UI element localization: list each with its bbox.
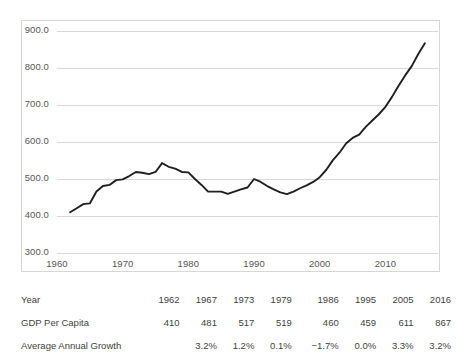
table-row-label: Average Annual Growth	[21, 334, 143, 357]
x-axis-tick-label: 1980	[168, 258, 208, 269]
table-cell: 0.0%	[339, 334, 376, 357]
x-axis-tick-label: 2000	[300, 258, 340, 269]
table-cell: 410	[143, 311, 180, 334]
table-row: GDP Per Capita410481517519460459611867	[21, 311, 451, 334]
x-axis-tick-label: 1960	[37, 258, 77, 269]
table-cell: −1.7%	[292, 334, 339, 357]
table-cell: 3.3%	[376, 334, 413, 357]
table-row-label: Year	[21, 288, 143, 311]
table-cell: 1973	[217, 288, 254, 311]
table-cell: 459	[339, 311, 376, 334]
y-axis-tick-label: 700.0	[9, 98, 49, 109]
table-cell	[143, 334, 180, 357]
table-cell: 1962	[143, 288, 180, 311]
y-axis-tick-label: 600.0	[9, 135, 49, 146]
table-cell: 460	[292, 311, 339, 334]
table-cell: 0.1%	[254, 334, 291, 357]
table-cell: 481	[180, 311, 217, 334]
table-cell: 2005	[376, 288, 413, 311]
x-axis-tick-label: 1990	[234, 258, 274, 269]
y-axis-tick-label: 400.0	[9, 209, 49, 220]
table-body: Year19621967197319791986199520052016GDP …	[21, 288, 451, 357]
table-cell: 2016	[414, 288, 451, 311]
y-axis-tick-label: 500.0	[9, 172, 49, 183]
y-axis-tick-label: 900.0	[9, 24, 49, 35]
gridlines	[57, 31, 438, 253]
y-axis-tick-label: 800.0	[9, 61, 49, 72]
table-cell: 1995	[339, 288, 376, 311]
table-cell: 3.2%	[180, 334, 217, 357]
table-cell: 1986	[292, 288, 339, 311]
x-axis-tick-label: 1970	[103, 258, 143, 269]
table-cell: 867	[414, 311, 451, 334]
table-cell: 3.2%	[414, 334, 451, 357]
table-cell: 517	[217, 311, 254, 334]
y-axis-tick-label: 300.0	[9, 246, 49, 257]
table-cell: 1967	[180, 288, 217, 311]
table-row-label: GDP Per Capita	[21, 311, 143, 334]
x-axis-tick-label: 2010	[365, 258, 405, 269]
table-row: Year19621967197319791986199520052016	[21, 288, 451, 311]
table-cell: 1979	[254, 288, 291, 311]
data-line-gdp-per-capita	[70, 43, 425, 212]
table-cell: 519	[254, 311, 291, 334]
series-group	[70, 43, 425, 212]
table-cell: 1.2%	[217, 334, 254, 357]
table-row: Average Annual Growth3.2%1.2%0.1%−1.7%0.…	[21, 334, 451, 357]
data-table: Year19621967197319791986199520052016GDP …	[21, 288, 451, 357]
table-cell: 611	[376, 311, 413, 334]
